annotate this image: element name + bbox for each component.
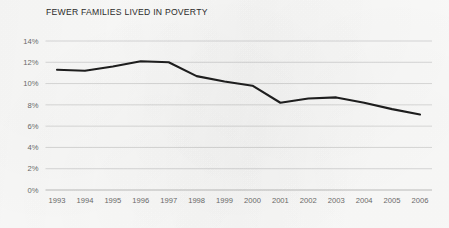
x-axis-tick-label: 2000	[244, 196, 261, 205]
line-chart: 14%12%10%8%6%4%2%0% 19931994199519961997…	[0, 0, 449, 228]
x-axis-tick-label: 1994	[76, 196, 93, 205]
x-axis-tick-label: 1997	[160, 196, 177, 205]
y-axis-tick-label: 12%	[23, 58, 38, 67]
y-axis-tick-label: 4%	[28, 143, 39, 152]
x-axis-tick-label: 1999	[216, 196, 233, 205]
x-axis-tick-label: 2005	[384, 196, 401, 205]
gridlines-group	[46, 41, 433, 190]
y-axis-tick-label: 2%	[28, 164, 39, 173]
y-axis-tick-label: 14%	[23, 37, 38, 46]
x-axis-tick-label: 1993	[49, 196, 66, 205]
y-axis-tick-label: 10%	[23, 79, 38, 88]
x-axis-tick-label: 2004	[356, 196, 373, 205]
y-axis-tick-label: 0%	[28, 186, 39, 195]
poverty-rate-line-series	[57, 61, 420, 114]
y-axis-tick-label: 6%	[28, 122, 39, 131]
x-axis-tick-label: 2001	[272, 196, 289, 205]
y-axis-tick-labels: 14%12%10%8%6%4%2%0%	[23, 37, 38, 195]
x-axis-tick-label: 2002	[300, 196, 317, 205]
x-axis-tick-labels: 1993199419951996199719981999200020012002…	[49, 196, 429, 205]
x-axis-tick-label: 1996	[132, 196, 149, 205]
y-axis-tick-label: 8%	[28, 101, 39, 110]
x-axis-tick-label: 2006	[412, 196, 429, 205]
x-axis-tick-label: 1995	[104, 196, 121, 205]
x-axis-tick-label: 2003	[328, 196, 345, 205]
x-axis-tick-label: 1998	[188, 196, 205, 205]
